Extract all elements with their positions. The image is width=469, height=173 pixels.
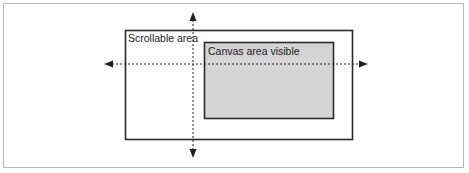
arrow-up-icon: [190, 12, 197, 21]
scrollable-area-label: Scrollable area: [128, 32, 198, 44]
arrow-down-icon: [190, 149, 197, 158]
arrow-right-icon: [359, 61, 368, 68]
arrow-left-icon: [104, 61, 113, 68]
scroll-diagram: Scrollable area Canvas area visible: [0, 0, 469, 173]
canvas-visible-label: Canvas area visible: [208, 45, 300, 57]
